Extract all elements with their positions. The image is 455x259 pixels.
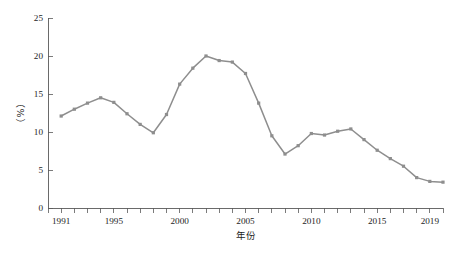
data-point-marker [257, 102, 260, 105]
line-chart-plot: 0510152025 1991199520002005201020152019 … [0, 0, 455, 259]
y-axis-tick-label: 15 [34, 89, 44, 99]
data-point-marker [402, 165, 405, 168]
data-point-marker [310, 132, 313, 135]
x-axis-title: 年份 [236, 230, 256, 241]
data-point-marker [441, 181, 444, 184]
data-point-marker [336, 130, 339, 133]
data-point-marker [112, 101, 115, 104]
data-point-marker [389, 157, 392, 160]
y-axis-tick-label: 25 [34, 13, 44, 23]
data-point-marker [139, 123, 142, 126]
data-point-marker [191, 67, 194, 70]
data-point-marker [362, 138, 365, 141]
x-axis-tick-label: 2005 [236, 216, 255, 226]
data-point-marker [99, 96, 102, 99]
y-axis-tick-label: 10 [34, 127, 44, 137]
data-point-marker [283, 152, 286, 155]
y-axis-title: （%） [15, 98, 26, 127]
data-point-marker [73, 108, 76, 111]
data-point-marker [60, 114, 63, 117]
y-axis-tick-label: 0 [38, 203, 43, 213]
data-point-marker [323, 133, 326, 136]
data-point-marker [165, 113, 168, 116]
data-point-marker [244, 72, 247, 75]
x-axis: 1991199520002005201020152019 [48, 208, 443, 226]
data-point-marker [428, 180, 431, 183]
y-axis-tick-label: 5 [38, 165, 43, 175]
x-axis-tick-label: 2019 [421, 216, 440, 226]
data-point-marker [178, 83, 181, 86]
data-point-marker [270, 134, 273, 137]
data-point-marker [152, 131, 155, 134]
y-axis: 0510152025 [34, 13, 53, 213]
data-point-marker [231, 60, 234, 63]
chart-figure: 0510152025 1991199520002005201020152019 … [0, 0, 455, 259]
data-point-marker [376, 149, 379, 152]
data-point-marker [297, 144, 300, 147]
x-axis-tick-label: 2015 [368, 216, 387, 226]
x-axis-tick-label: 2010 [302, 216, 321, 226]
data-point-marker [125, 112, 128, 115]
x-axis-tick-label: 1995 [105, 216, 124, 226]
data-point-marker [349, 127, 352, 130]
data-point-marker [415, 176, 418, 179]
data-point-marker [204, 54, 207, 57]
data-point-marker [86, 102, 89, 105]
x-axis-tick-label: 1991 [52, 216, 71, 226]
data-series [60, 54, 445, 183]
y-axis-tick-label: 20 [34, 51, 44, 61]
data-point-marker [218, 59, 221, 62]
x-axis-tick-label: 2000 [170, 216, 189, 226]
series-line [61, 56, 443, 182]
